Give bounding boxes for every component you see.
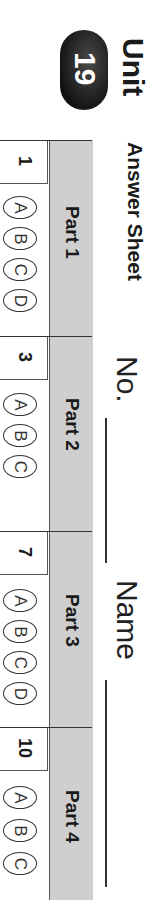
option-d-bubble[interactable]: D bbox=[3, 289, 37, 312]
option-b-bubble[interactable]: B bbox=[3, 620, 37, 643]
option-c-bubble[interactable]: C bbox=[3, 258, 37, 281]
unit-number: 19 bbox=[70, 52, 100, 85]
unit-word: Unit bbox=[118, 38, 148, 96]
page-title: Answer Sheet bbox=[124, 142, 146, 281]
option-b-bubble[interactable]: B bbox=[3, 819, 37, 842]
option-a-bubble[interactable]: A bbox=[3, 786, 37, 809]
number-label: No. bbox=[112, 356, 142, 403]
option-a-bubble[interactable]: A bbox=[3, 196, 37, 219]
part-4-label: Part 4 bbox=[62, 790, 82, 843]
option-b-bubble[interactable]: B bbox=[3, 227, 37, 250]
part-2-label: Part 2 bbox=[62, 398, 82, 451]
question-number: 3 bbox=[16, 352, 34, 362]
option-c-bubble[interactable]: C bbox=[3, 651, 37, 674]
option-b-bubble[interactable]: B bbox=[3, 424, 37, 447]
question-number: 7 bbox=[16, 547, 34, 557]
number-field[interactable] bbox=[105, 418, 107, 563]
option-a-bubble[interactable]: A bbox=[3, 393, 37, 416]
option-a-bubble[interactable]: A bbox=[3, 589, 37, 612]
question-number: 10 bbox=[16, 738, 34, 758]
part-3-label: Part 3 bbox=[62, 594, 82, 647]
option-c-bubble[interactable]: C bbox=[3, 852, 37, 875]
option-c-bubble[interactable]: C bbox=[3, 455, 37, 478]
name-label: Name bbox=[112, 580, 142, 660]
part-1-label: Part 1 bbox=[62, 206, 82, 259]
name-field[interactable] bbox=[105, 680, 107, 887]
question-number: 1 bbox=[16, 156, 34, 166]
option-d-bubble[interactable]: D bbox=[3, 682, 37, 705]
